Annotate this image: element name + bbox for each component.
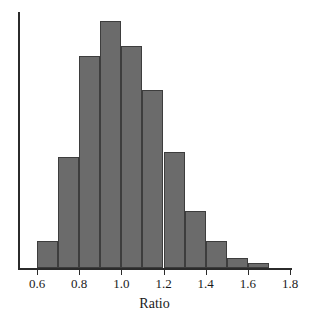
histogram-bar	[121, 46, 142, 268]
x-tick-mark	[206, 270, 207, 275]
x-tick-label: 1.2	[144, 276, 184, 292]
x-tick-label: 0.6	[17, 276, 57, 292]
x-tick-mark	[37, 270, 38, 275]
x-tick-label: 0.8	[59, 276, 99, 292]
histogram-bar	[185, 211, 206, 268]
x-tick-mark	[79, 270, 80, 275]
histogram-bar	[206, 241, 227, 268]
x-axis-line	[18, 268, 292, 270]
x-tick-mark	[164, 270, 165, 275]
histogram-bar	[100, 21, 121, 268]
histogram-bar	[227, 258, 248, 268]
x-tick-label: 1.6	[228, 276, 268, 292]
histogram-bar	[37, 241, 58, 268]
x-tick-label: 1.0	[101, 276, 141, 292]
histogram-bar	[164, 152, 185, 268]
x-axis-title: Ratio	[0, 296, 309, 312]
histogram-bar	[79, 56, 100, 268]
histogram-bar	[58, 157, 79, 268]
x-tick-mark	[121, 270, 122, 275]
x-tick-label: 1.8	[270, 276, 309, 292]
x-tick-mark	[290, 270, 291, 275]
x-tick-label: 1.4	[186, 276, 226, 292]
y-axis-line	[18, 12, 20, 268]
histogram-bar	[142, 90, 163, 268]
x-tick-mark	[248, 270, 249, 275]
plot-area: 0.60.81.01.21.41.61.8	[0, 0, 309, 314]
histogram-bar	[248, 263, 269, 268]
histogram-figure: 0.60.81.01.21.41.61.8 Ratio	[0, 0, 309, 314]
